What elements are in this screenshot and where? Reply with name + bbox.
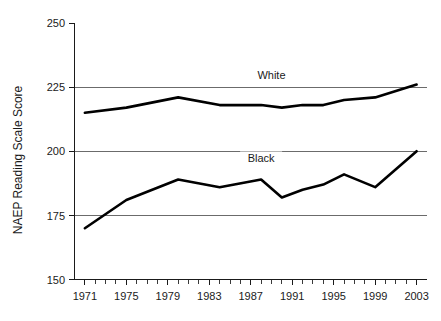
x-tick-label-2003: 2003 [404,290,428,302]
series-label-black: Black [248,152,275,164]
x-tick-label-1971: 1971 [73,290,97,302]
x-tick-label-1983: 1983 [197,290,221,302]
x-tick-label-1979: 1979 [156,290,180,302]
x-tick-label-1987: 1987 [239,290,263,302]
y-tick-label-200: 200 [47,145,65,157]
chart-canvas: NAEP Reading Scale Score 250 225 200 175 [0,0,441,321]
y-tick-label-175: 175 [47,210,65,222]
y-tick-labels: 250 225 200 175 150 [47,17,65,286]
x-tick-labels: 197119751979198319871991199519992003 [73,290,429,302]
x-tick-label-1995: 1995 [321,290,345,302]
x-tick-marks [85,280,417,285]
y-tick-marks [69,23,74,280]
x-tick-label-1991: 1991 [280,290,304,302]
y-tick-label-150: 150 [47,274,65,286]
series-line-white [85,85,417,113]
naep-reading-line-chart: NAEP Reading Scale Score 250 225 200 175 [0,0,441,321]
x-tick-label-1975: 1975 [114,290,138,302]
series-annotations: WhiteBlack [240,69,292,164]
series-label-white: White [257,69,285,81]
x-tick-label-1999: 1999 [363,290,387,302]
y-axis-title: NAEP Reading Scale Score [11,85,25,234]
y-tick-label-225: 225 [47,81,65,93]
y-tick-label-250: 250 [47,17,65,29]
